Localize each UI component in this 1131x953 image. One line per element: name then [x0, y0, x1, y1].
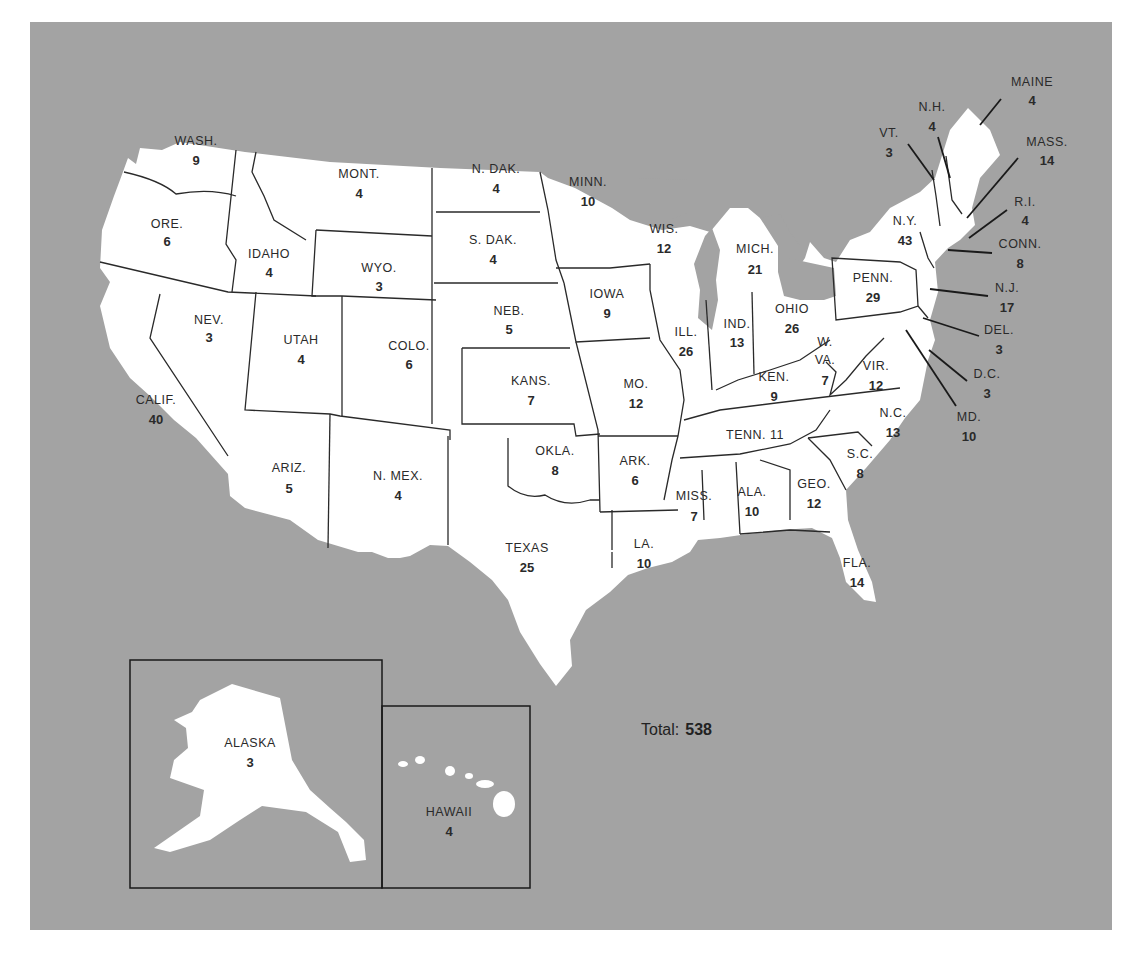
lake-superior — [612, 178, 720, 222]
state-label-d-c: D.C.3 — [974, 367, 1001, 401]
state-label-maine: MAINE4 — [1011, 75, 1053, 108]
svg-text:MONT.: MONT. — [338, 167, 379, 181]
svg-text:S.C.: S.C. — [847, 447, 873, 461]
svg-text:4: 4 — [297, 352, 305, 367]
state-label-del: DEL.3 — [984, 323, 1014, 357]
svg-text:43: 43 — [898, 233, 912, 248]
total-label: Total: — [641, 721, 679, 738]
svg-text:3: 3 — [246, 755, 253, 770]
svg-text:VA.: VA. — [815, 353, 836, 367]
state-label-r-i: R.I.4 — [1014, 195, 1035, 228]
svg-text:14: 14 — [1040, 153, 1055, 168]
svg-text:MD.: MD. — [957, 410, 981, 424]
svg-text:3: 3 — [375, 279, 382, 294]
svg-text:10: 10 — [745, 504, 759, 519]
svg-text:N. DAK.: N. DAK. — [472, 162, 521, 176]
svg-text:S. DAK.: S. DAK. — [469, 233, 517, 247]
svg-text:40: 40 — [149, 412, 163, 427]
svg-text:8: 8 — [551, 463, 558, 478]
svg-text:6: 6 — [631, 473, 638, 488]
svg-text:3: 3 — [983, 386, 990, 401]
total-electoral-votes: Total:538 — [641, 721, 712, 739]
svg-text:N.J.: N.J. — [995, 281, 1019, 295]
svg-text:5: 5 — [285, 481, 292, 496]
state-label-vt: VT.3 — [879, 126, 899, 160]
svg-text:OHIO: OHIO — [775, 302, 809, 316]
svg-text:9: 9 — [603, 306, 610, 321]
svg-text:IND.: IND. — [724, 317, 751, 331]
svg-text:26: 26 — [785, 321, 799, 336]
svg-text:ARK.: ARK. — [619, 454, 650, 468]
svg-text:4: 4 — [355, 186, 363, 201]
svg-text:14: 14 — [850, 575, 865, 590]
svg-text:12: 12 — [807, 496, 821, 511]
svg-text:29: 29 — [866, 290, 880, 305]
svg-text:12: 12 — [629, 396, 643, 411]
svg-text:ALA.: ALA. — [737, 485, 766, 499]
svg-text:IOWA: IOWA — [590, 287, 625, 301]
svg-text:26: 26 — [679, 344, 693, 359]
svg-text:17: 17 — [1000, 300, 1014, 315]
svg-text:PENN.: PENN. — [853, 271, 894, 285]
svg-text:9: 9 — [770, 389, 777, 404]
svg-text:MINN.: MINN. — [569, 175, 607, 189]
svg-text:MO.: MO. — [623, 377, 648, 391]
svg-text:8: 8 — [1016, 256, 1023, 271]
svg-text:4: 4 — [928, 119, 936, 134]
svg-text:13: 13 — [730, 335, 744, 350]
contiguous-us-landmass — [100, 108, 1000, 686]
svg-text:25: 25 — [520, 560, 534, 575]
svg-text:3: 3 — [995, 342, 1002, 357]
svg-text:VIR.: VIR. — [863, 359, 889, 373]
svg-text:KEN.: KEN. — [758, 370, 789, 384]
svg-text:CALIF.: CALIF. — [136, 393, 177, 407]
svg-text:W.: W. — [817, 335, 833, 349]
svg-text:UTAH: UTAH — [283, 333, 318, 347]
svg-text:13: 13 — [886, 425, 900, 440]
svg-text:10: 10 — [637, 556, 651, 571]
svg-text:FLA.: FLA. — [843, 556, 871, 570]
svg-text:10: 10 — [962, 429, 976, 444]
svg-text:4: 4 — [265, 265, 273, 280]
svg-text:TENN. 11: TENN. 11 — [726, 428, 784, 442]
svg-text:VT.: VT. — [879, 126, 899, 140]
svg-text:IDAHO: IDAHO — [248, 247, 290, 261]
svg-text:CONN.: CONN. — [999, 237, 1042, 251]
svg-text:6: 6 — [163, 234, 170, 249]
svg-text:8: 8 — [856, 466, 863, 481]
svg-text:6: 6 — [405, 357, 412, 372]
state-label-hawaii: HAWAII4 — [426, 805, 473, 839]
svg-text:7: 7 — [527, 393, 534, 408]
state-label-conn: CONN.8 — [999, 237, 1042, 271]
svg-text:LA.: LA. — [634, 537, 654, 551]
svg-text:WIS.: WIS. — [649, 222, 678, 236]
svg-text:12: 12 — [657, 241, 671, 256]
svg-text:N.H.: N.H. — [919, 100, 946, 114]
svg-text:COLO.: COLO. — [388, 339, 429, 353]
total-value: 538 — [685, 721, 712, 738]
svg-text:5: 5 — [505, 322, 512, 337]
svg-text:4: 4 — [492, 181, 500, 196]
svg-text:4: 4 — [1028, 93, 1036, 108]
state-label-n-j: N.J.17 — [995, 281, 1019, 315]
svg-text:ILL.: ILL. — [675, 325, 698, 339]
state-label-n-h: N.H.4 — [919, 100, 946, 134]
svg-text:HAWAII: HAWAII — [426, 805, 473, 819]
svg-text:ALASKA: ALASKA — [224, 736, 276, 750]
svg-text:4: 4 — [1021, 213, 1029, 228]
svg-text:NEV.: NEV. — [194, 313, 224, 327]
svg-text:DEL.: DEL. — [984, 323, 1014, 337]
svg-text:ARIZ.: ARIZ. — [272, 461, 306, 475]
svg-text:7: 7 — [690, 509, 697, 524]
svg-text:MICH.: MICH. — [736, 242, 774, 256]
svg-text:MASS.: MASS. — [1026, 135, 1067, 149]
svg-text:N.C.: N.C. — [880, 406, 907, 420]
svg-text:4: 4 — [489, 252, 497, 267]
svg-text:4: 4 — [445, 824, 453, 839]
svg-text:N.Y.: N.Y. — [893, 214, 918, 228]
svg-text:KANS.: KANS. — [511, 374, 551, 388]
svg-text:WYO.: WYO. — [361, 261, 396, 275]
svg-text:R.I.: R.I. — [1014, 195, 1035, 209]
state-label-mass: MASS.14 — [1026, 135, 1067, 168]
svg-text:GEO.: GEO. — [797, 477, 830, 491]
